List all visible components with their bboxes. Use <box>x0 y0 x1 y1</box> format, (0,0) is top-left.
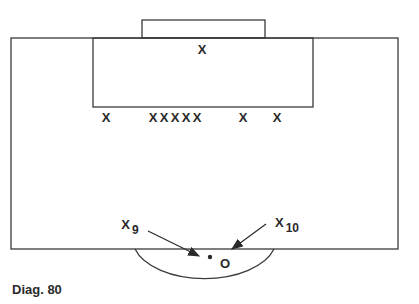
player-defender: X <box>149 111 158 124</box>
player-defender: X <box>160 111 169 124</box>
attacker-10-label: X <box>275 215 284 230</box>
player-defender: X <box>102 111 111 124</box>
opponent-marker: O <box>220 257 230 270</box>
player-defender: X <box>182 111 191 124</box>
attacker-10-number: 10 <box>286 221 299 235</box>
attacker-10: X10 <box>275 216 299 229</box>
player-defender: X <box>239 111 248 124</box>
attacker-9: X9 <box>121 218 138 231</box>
player-defender: X <box>273 111 282 124</box>
attacker-9-label: X <box>121 217 130 232</box>
goal <box>142 20 265 38</box>
diagram-caption: Diag. 80 <box>12 283 62 296</box>
player-goalkeeper: X <box>198 43 207 56</box>
pitch-diagram <box>0 0 419 304</box>
player-defender: X <box>193 111 202 124</box>
arrow-x9 <box>148 231 199 256</box>
pitch-outline <box>11 38 398 249</box>
arrow-x10 <box>232 224 266 249</box>
ball-icon <box>208 255 212 259</box>
player-defender: X <box>171 111 180 124</box>
attacker-9-number: 9 <box>132 223 139 237</box>
penalty-arc <box>135 249 274 279</box>
